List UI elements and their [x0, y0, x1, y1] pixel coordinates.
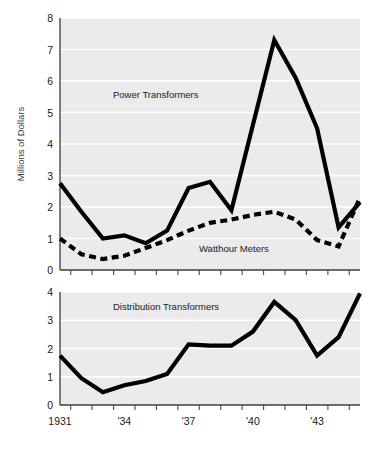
y-tick-label: 5	[47, 107, 53, 119]
annotation-power-transformers: Power Transformers	[113, 89, 199, 100]
y-tick-label: 2	[47, 343, 53, 355]
annotation-distribution-transformers: Distribution Transformers	[113, 301, 219, 312]
annotation-watthour-meters: Watthour Meters	[199, 243, 269, 254]
y-tick-label: 1	[47, 233, 53, 245]
x-tick-label-1931: 1931	[48, 415, 72, 427]
y-tick-label: 1	[47, 371, 53, 383]
y-tick-label: 7	[47, 44, 53, 56]
x-tick-label-43: '43	[310, 415, 324, 427]
y-tick-label: 4	[47, 138, 53, 150]
y-tick-label: 0	[47, 264, 53, 276]
top-panel-y-tick-labels: 8 7 6 5 4 3 2 1 0	[47, 12, 53, 276]
two-panel-line-chart: 8 7 6 5 4 3 2 1 0 Pow	[0, 0, 371, 452]
x-tick-label-34: '34	[117, 415, 131, 427]
x-tick-label-37: '37	[182, 415, 196, 427]
y-tick-label: 3	[47, 170, 53, 182]
y-tick-label: 8	[47, 12, 53, 24]
y-tick-label: 3	[47, 314, 53, 326]
y-tick-label: 0	[47, 399, 53, 411]
x-tick-label-40: '40	[246, 415, 260, 427]
y-tick-label: 6	[47, 75, 53, 87]
top-panel: 8 7 6 5 4 3 2 1 0 Pow	[15, 12, 360, 276]
y-tick-label: 4	[47, 286, 53, 298]
y-axis-title: Millions of Dollars	[15, 107, 26, 182]
y-tick-label: 2	[47, 201, 53, 213]
